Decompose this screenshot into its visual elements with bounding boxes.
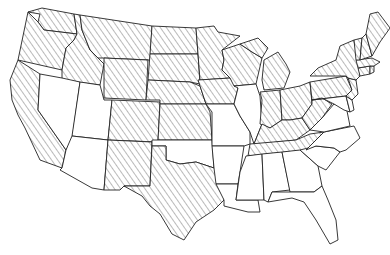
state-colorado[interactable]	[108, 100, 160, 142]
state-kansas[interactable]	[158, 104, 212, 140]
state-new-mexico[interactable]	[104, 140, 152, 190]
state-south-dakota[interactable]	[148, 54, 200, 84]
state-north-dakota[interactable]	[150, 26, 198, 54]
state-florida[interactable]	[268, 186, 338, 244]
state-wyoming[interactable]	[104, 58, 148, 100]
state-new-york[interactable]	[310, 40, 360, 80]
us-map	[0, 0, 390, 255]
state-rhode-island[interactable]	[370, 66, 374, 74]
